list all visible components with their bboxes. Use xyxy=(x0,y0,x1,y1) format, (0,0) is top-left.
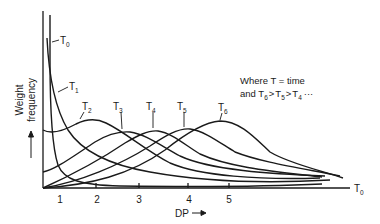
curve-T0 xyxy=(50,15,322,186)
x-axis-end-label: T0 xyxy=(354,183,364,196)
label-T3: T3 xyxy=(113,101,123,114)
y-arrow-icon xyxy=(29,131,34,158)
label-T4: T4 xyxy=(146,101,156,114)
x-arrow-icon xyxy=(192,211,206,216)
label-T6: T6 xyxy=(218,102,228,115)
svg-text:4: 4 xyxy=(186,194,192,205)
annotation-note: Where T = time and T6>T5>T4··· xyxy=(240,75,313,101)
curve-labels: T0 T1 T2 T3 T4 T5 T6 xyxy=(52,35,228,129)
svg-text:frequency: frequency xyxy=(26,78,37,122)
svg-text:and T6>T5>T4···: and T6>T5>T4··· xyxy=(240,88,313,101)
y-axis-label: Weight frequency xyxy=(14,78,37,122)
svg-text:Weight: Weight xyxy=(14,84,25,115)
x-tick-labels: 1 2 3 4 5 xyxy=(57,194,232,205)
label-T0: T0 xyxy=(60,35,70,48)
svg-text:5: 5 xyxy=(226,194,232,205)
label-T5: T5 xyxy=(177,101,187,114)
x-axis-title: DP xyxy=(175,208,189,219)
molecular-weight-distribution-chart: Weight frequency T0 T1 T2 T3 xyxy=(0,0,380,224)
curve-T3 xyxy=(43,132,325,176)
svg-text:2: 2 xyxy=(94,194,100,205)
svg-text:3: 3 xyxy=(136,194,142,205)
svg-text:1: 1 xyxy=(57,194,63,205)
curve-T4 xyxy=(43,131,322,188)
svg-text:Where T = time: Where T = time xyxy=(240,75,305,86)
label-T1: T1 xyxy=(69,81,79,94)
